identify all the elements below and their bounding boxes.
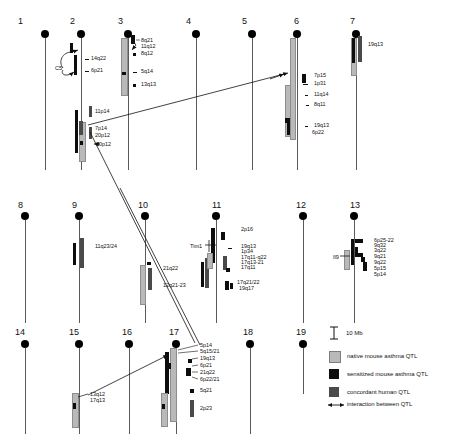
centromere-dot [299, 340, 307, 348]
qtl-bar-sensitized [165, 352, 169, 394]
chromosome-number: 1 [18, 16, 23, 26]
chromosome-number: 4 [186, 16, 191, 26]
chromosome-axis [216, 220, 217, 323]
qtl-bar-sensitized [133, 84, 136, 87]
human-qtl-label: 17q11 [241, 265, 256, 271]
centromere-dot [125, 340, 133, 348]
label-tick [228, 248, 232, 249]
centromere-dot [41, 30, 49, 38]
label-tick [305, 95, 308, 96]
centromere-dot [77, 30, 85, 38]
qtl-bar-native [161, 393, 168, 427]
qtl-bar-sensitized [70, 43, 73, 53]
chromosome-axis [303, 348, 304, 394]
human-qtl-label: 20p12 [96, 142, 111, 148]
human-qtl-label: 6p21 [200, 363, 212, 369]
qtl-bar-sensitized [201, 262, 204, 287]
centromere-dot [350, 212, 358, 220]
chromosome-axis [79, 220, 80, 323]
qtl-bar-sensitized [147, 262, 151, 265]
legend-label-sensitized: sensitized mouse asthma QTL [347, 371, 428, 377]
human-qtl-label: 1p31 [314, 81, 326, 87]
chromosome-axis [297, 38, 298, 170]
qtl-bar-sensitized [75, 110, 78, 153]
chromosome-number: 7 [350, 16, 355, 26]
human-qtl-label: 21q22 [200, 370, 215, 376]
leader-line-chr17-c [192, 358, 198, 359]
chromosome-number: 5 [242, 16, 247, 26]
leader-line-chr17-f [192, 377, 198, 379]
chromosome-axis [196, 38, 197, 170]
legend-swatch-concordant [329, 387, 339, 397]
qtl-bar-sensitized [73, 403, 76, 409]
centromere-dot [75, 212, 83, 220]
interaction-arrow-chr2-chr6 [88, 73, 288, 125]
human-qtl-label: 8q11 [314, 102, 326, 108]
human-qtl-label: 11q23/24 [95, 244, 117, 250]
chromosome-number: 17 [169, 327, 179, 337]
qtl-bar-concordant [89, 127, 92, 139]
human-qtl-label: 5p14 [374, 272, 386, 278]
chromosome-number: 2 [70, 16, 75, 26]
qtl-bar-sensitized [122, 72, 126, 75]
qtl-bar-native [121, 38, 128, 96]
interaction-arrow-chr11-chr17 [120, 188, 200, 345]
gene-label-tim1: Tim1 [190, 243, 202, 249]
qtl-bar-native [207, 253, 213, 269]
centromere-dot [21, 212, 29, 220]
chromosome-number: 8 [18, 200, 23, 210]
qtl-bar-sensitized [355, 239, 363, 243]
qtl-bar-sensitized [133, 53, 136, 56]
qtl-bar-native [170, 348, 177, 422]
interaction-arrow-icon [325, 400, 347, 410]
qtl-bar-concordant [190, 400, 194, 417]
qtl-bar-native [72, 393, 79, 428]
centromere-dot [141, 212, 149, 220]
qtl-bar-concordant [80, 238, 84, 268]
qtl-bar-sensitized [230, 283, 233, 289]
chromosome-axis [25, 348, 26, 434]
human-qtl-label: 11q14 [314, 92, 329, 98]
leader-line-chr17-d [192, 365, 198, 366]
centromere-dot [21, 340, 29, 348]
scale-bar-icon [328, 326, 340, 340]
scale-label: 10 Mb [346, 330, 363, 336]
label-tick [133, 72, 137, 73]
label-tick [305, 126, 308, 127]
chromosome-number: 15 [69, 327, 79, 337]
centromere-dot [293, 30, 301, 38]
chromosome-number: 13 [350, 200, 360, 210]
legend-label-interaction: interaction between QTL [347, 401, 412, 407]
qtl-bar-sensitized [73, 243, 76, 265]
human-qtl-label: 12q21-23 [163, 283, 186, 289]
human-qtl-label: 19q13 [314, 123, 329, 129]
qtl-bar-sensitized [188, 359, 192, 363]
interaction-arrow-c5-lower [62, 70, 74, 75]
connector-chr15 [78, 394, 88, 397]
centromere-dot [75, 340, 83, 348]
qtl-bar-sensitized [165, 363, 171, 369]
chromosome-axis [354, 220, 355, 323]
interaction-arrow-chr2-chr17 [90, 132, 195, 343]
qtl-bar-sensitized [221, 232, 225, 240]
human-qtl-label: 20p12 [95, 133, 110, 139]
human-qtl-label: 7p15 [314, 73, 326, 79]
human-qtl-label: 7p14 [95, 126, 107, 132]
chromosome-number: 12 [296, 200, 306, 210]
human-qtl-label: 8q12 [141, 51, 153, 57]
gene-label-c5: C5 [55, 65, 62, 71]
qtl-bar-sensitized [74, 55, 77, 75]
interaction-arrow-chr6-in [270, 74, 284, 79]
qtl-bar-sensitized [186, 368, 191, 376]
legend-label-native: native mouse asthma QTL [347, 353, 417, 359]
qtl-bar-sensitized [302, 74, 306, 83]
qtl-bar-native [344, 250, 350, 270]
legend-swatch-native [329, 351, 341, 363]
human-qtl-label: 17q13 [90, 398, 105, 404]
human-qtl-label: 19q17 [239, 286, 254, 292]
qtl-bar-native [140, 265, 146, 305]
qtl-bar-sensitized [226, 268, 230, 272]
qtl-bar-sensitized [190, 389, 194, 393]
chromosome-axis [45, 38, 46, 170]
chromosome-number: 16 [122, 327, 132, 337]
